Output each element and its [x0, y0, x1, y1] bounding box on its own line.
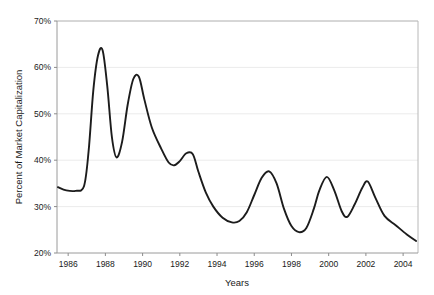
- x-tick-label: 1990: [133, 259, 152, 269]
- x-tick-label: 2000: [319, 259, 338, 269]
- y-tick-label: 40%: [34, 155, 51, 165]
- x-tick-label: 1998: [282, 259, 301, 269]
- y-tick-label: 30%: [34, 202, 51, 212]
- chart-container: 20%30%40%50%60%70% 198619881990199219941…: [0, 0, 434, 295]
- y-axis-title: Percent of Market Capitalization: [13, 70, 24, 205]
- x-axis-title: Years: [225, 277, 249, 288]
- x-tick-label: 2004: [394, 259, 413, 269]
- y-tick-label: 50%: [34, 109, 51, 119]
- x-tick-label: 1992: [170, 259, 189, 269]
- y-tick-label: 70%: [34, 16, 51, 26]
- x-axis-tick-labels: 1986198819901992199419961998200020022004: [59, 259, 413, 269]
- x-tick-label: 1988: [96, 259, 115, 269]
- y-tick-label: 20%: [34, 248, 51, 258]
- x-tick-label: 1994: [208, 259, 227, 269]
- x-tick-label: 2002: [356, 259, 375, 269]
- x-tick-label: 1986: [59, 259, 78, 269]
- y-tick-label: 60%: [34, 62, 51, 72]
- line-chart: 20%30%40%50%60%70% 198619881990199219941…: [0, 0, 434, 295]
- y-axis-tick-labels: 20%30%40%50%60%70%: [34, 16, 51, 258]
- x-tick-label: 1996: [245, 259, 264, 269]
